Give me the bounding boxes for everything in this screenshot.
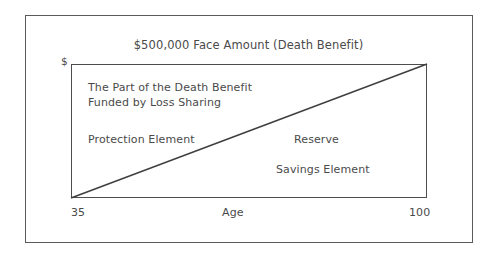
- reserve-label: Reserve: [294, 133, 339, 148]
- chart-title: $500,000 Face Amount (Death Benefit): [0, 38, 497, 53]
- y-axis-label: $: [61, 55, 68, 69]
- protection-description-line-1: The Part of the Death Benefit: [88, 81, 252, 96]
- protection-description-block: The Part of the Death Benefit Funded by …: [88, 81, 252, 110]
- x-axis-end-label: 100: [409, 206, 430, 221]
- protection-description-line-2: Funded by Loss Sharing: [88, 96, 252, 111]
- x-axis-start-label: 35: [71, 206, 85, 221]
- diagram-canvas: $500,000 Face Amount (Death Benefit) $ T…: [0, 0, 497, 259]
- protection-element-label: Protection Element: [88, 133, 195, 148]
- savings-element-label: Savings Element: [276, 163, 370, 178]
- x-axis-title: Age: [222, 206, 244, 221]
